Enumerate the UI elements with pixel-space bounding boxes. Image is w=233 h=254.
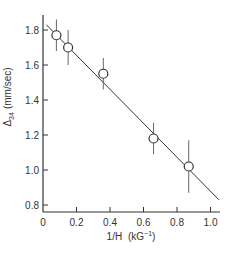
data-point-marker xyxy=(99,69,108,78)
x-label-main: 1/H xyxy=(107,231,123,242)
data-point-marker xyxy=(149,134,158,143)
x-tick-label: 0.6 xyxy=(137,217,151,228)
data-point-marker xyxy=(184,162,193,171)
chart: 00.20.40.60.81.00.81.01.21.41.61.8 1/H (… xyxy=(0,0,233,254)
y-tick-label: 1.0 xyxy=(25,165,39,176)
y-label-subscript: 34 xyxy=(8,112,15,120)
x-label-exponent: −1 xyxy=(144,230,152,237)
x-tick-label: 1.0 xyxy=(204,217,218,228)
y-axis-label: Δ34(mm/sec) xyxy=(2,67,15,126)
ticks: 00.20.40.60.81.00.81.01.21.41.61.8 xyxy=(25,25,218,229)
data-points xyxy=(52,20,193,193)
y-tick-label: 0.8 xyxy=(25,200,39,211)
data-point-marker xyxy=(52,31,61,40)
x-tick-label: 0.4 xyxy=(103,217,117,228)
fit-line-segment xyxy=(46,25,219,200)
x-label-unit: (kG xyxy=(128,231,144,242)
y-tick-label: 1.2 xyxy=(25,130,39,141)
fit-line xyxy=(46,25,219,200)
y-tick-label: 1.8 xyxy=(25,25,39,36)
y-tick-label: 1.4 xyxy=(25,95,39,106)
y-label-unit: (mm/sec) xyxy=(2,67,13,109)
x-tick-label: 0 xyxy=(40,217,46,228)
y-tick-label: 1.6 xyxy=(25,60,39,71)
x-tick-label: 0.2 xyxy=(70,217,84,228)
x-axis-label: 1/H (kG−1) xyxy=(107,230,156,242)
x-label-close: ) xyxy=(152,231,155,242)
data-point-marker xyxy=(64,43,73,52)
x-tick-label: 0.8 xyxy=(170,217,184,228)
